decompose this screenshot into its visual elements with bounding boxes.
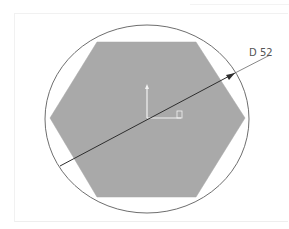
sketch-canvas[interactable]: D 52	[0, 0, 289, 229]
arrowhead-icon	[226, 73, 235, 80]
dimension-label[interactable]: D 52	[249, 47, 273, 58]
